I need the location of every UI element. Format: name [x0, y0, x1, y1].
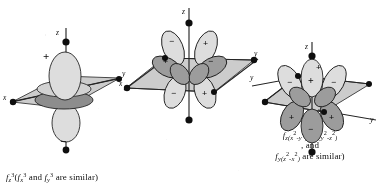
axis-label-z: z	[304, 42, 308, 51]
sign-upper-right: −	[331, 77, 336, 87]
z-axis-node-bottom	[308, 148, 315, 155]
caption-alt2-sup: 3	[50, 171, 53, 178]
axis-label-y-upper-left: y	[249, 73, 254, 82]
sign-upper-center: +	[308, 75, 314, 86]
x-axis-node-left	[124, 85, 130, 91]
axis-label-x: x	[118, 79, 123, 88]
plane-node-front-right	[211, 89, 217, 95]
fxyz-diagram: + − + − + + − z y y	[248, 0, 378, 174]
sign-plus-upper: +	[43, 50, 49, 62]
axis-label-y-lower-right: y	[369, 115, 374, 124]
orbital-panel-fxyz: + − + − + + − z y y fxyz	[248, 0, 378, 194]
sign-lower-right: +	[329, 112, 334, 122]
plane-node-back-right	[366, 81, 372, 87]
sign-mid-right: −	[208, 56, 213, 66]
axis-label-z: z	[55, 28, 59, 37]
caption-alt1-sup: 3	[23, 171, 26, 178]
z-axis-node-top	[185, 19, 192, 26]
z-axis-node-bottom	[63, 147, 70, 154]
sign-mid-left: +	[163, 56, 168, 66]
figure-page: + − z x y fz3(fx3 and fy3 are similar)	[0, 0, 378, 194]
z-axis-node-top	[62, 38, 69, 45]
sign-lower-left: −	[171, 88, 176, 98]
caption-fz3: fz3(fx3 and fy3 are similar)	[6, 172, 98, 183]
orbital-panel-fz3: + − z x y fz3(fx3 and fy3 are similar)	[0, 0, 132, 194]
sign-bottom: −	[308, 124, 313, 134]
sign-minus-lower: −	[60, 135, 66, 147]
sign-upper-left: −	[169, 36, 174, 46]
x-axis-node-left	[10, 99, 16, 105]
fz3-diagram: + − z x y	[0, 0, 132, 172]
axis-label-x: x	[2, 93, 7, 102]
sign-upper-right: +	[203, 38, 208, 48]
z-axis-node-top	[308, 52, 315, 59]
sign-upper-left: −	[287, 77, 292, 87]
fzx2y2-diagram: − + + − − + z x y	[118, 0, 260, 130]
caption-tail: are similar	[56, 172, 95, 182]
sign-lower-right: +	[202, 88, 207, 98]
z-axis-node-bottom	[185, 116, 192, 123]
sign-plus-top-axis: +	[316, 62, 321, 72]
axis-label-z: z	[181, 7, 185, 16]
orbital-panel-fzx2y2: − + + − − + z x y fz(x2-y2) (fx(y2-z2) ,…	[118, 0, 260, 194]
lobe-positive-upper	[49, 52, 81, 100]
sign-lower-left: +	[289, 112, 294, 122]
caption-conj: and	[29, 172, 42, 182]
plane-node-back-left	[295, 73, 301, 79]
caption-paren-close: )	[95, 172, 98, 182]
plane-node-front-right	[321, 109, 327, 115]
plane-node-front-left	[262, 99, 268, 105]
